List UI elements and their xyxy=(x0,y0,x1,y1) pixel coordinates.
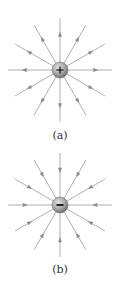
field-line xyxy=(67,44,105,66)
arrow-head-icon xyxy=(76,233,80,238)
field-line xyxy=(34,77,56,115)
field-line xyxy=(15,74,53,96)
arrow-head-icon xyxy=(22,68,27,72)
negative-charge-field-diagram xyxy=(8,153,112,257)
arrow-head-icon xyxy=(27,51,32,55)
arrow-head-icon xyxy=(41,98,45,103)
arrow-head-icon xyxy=(58,32,62,37)
arrow-head-icon xyxy=(76,172,80,177)
arrow-head-icon xyxy=(27,221,32,225)
arrow-head-icon xyxy=(93,68,98,72)
field-line xyxy=(15,44,53,66)
positive-charge-field-diagram xyxy=(8,18,112,122)
diagram-b-caption: (b) xyxy=(0,263,122,276)
field-line xyxy=(64,77,86,115)
arrow-head-icon xyxy=(92,203,97,207)
field-line xyxy=(67,74,105,96)
arrow-head-icon xyxy=(58,237,62,242)
arrow-head-icon xyxy=(41,37,45,42)
arrow-head-icon xyxy=(88,185,93,189)
arrow-head-icon xyxy=(75,98,79,103)
arrow-head-icon xyxy=(88,85,93,89)
arrow-head-icon xyxy=(58,168,62,173)
field-line xyxy=(67,209,105,231)
field-line xyxy=(67,179,105,201)
arrow-head-icon xyxy=(40,233,44,238)
arrow-head-icon xyxy=(40,172,44,177)
arrow-head-icon xyxy=(27,185,32,189)
arrow-head-icon xyxy=(27,85,32,89)
arrow-head-icon xyxy=(75,37,79,42)
arrow-head-icon xyxy=(23,203,28,207)
diagram-a-caption: (a) xyxy=(0,129,122,142)
field-diagram-canvas xyxy=(0,0,124,284)
arrow-head-icon xyxy=(58,103,62,108)
field-line xyxy=(64,25,86,63)
arrow-head-icon xyxy=(88,221,93,225)
arrow-head-icon xyxy=(88,51,93,55)
